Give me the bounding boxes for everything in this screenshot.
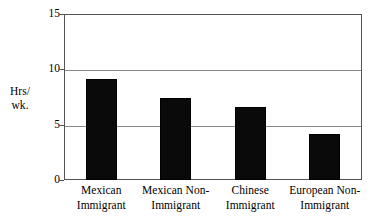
x-category-label-3-line-2: Immigrant — [282, 198, 369, 213]
bar-mexican-non-immigrant — [160, 98, 191, 180]
x-category-label-0-line-1: Mexican — [81, 184, 122, 196]
x-category-label-2-line-1: Chinese — [232, 184, 269, 196]
x-category-label-1-line-1: Mexican Non- — [142, 184, 209, 196]
x-category-label-3: European Non- Immigrant — [282, 183, 369, 212]
bar-mexican-immigrant — [86, 79, 117, 180]
bar-european-non-immigrant — [309, 134, 340, 180]
bar-chinese-immigrant — [235, 107, 266, 180]
bar-chart: Hrs/ wk. 15 10 5 0 Mexican Immigrant Mex… — [0, 0, 375, 221]
x-category-label-3-line-1: European Non- — [289, 184, 360, 196]
